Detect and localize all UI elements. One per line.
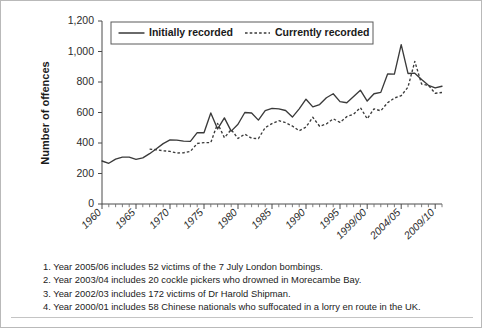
x-tick-label: 1985	[248, 206, 273, 231]
x-tick-label: 1990	[282, 206, 307, 231]
chart-area: 02004006008001,0001,200 1960196519701975…	[1, 1, 482, 253]
y-tick-labels: 02004006008001,0001,200	[68, 14, 94, 209]
x-tick-labels: 196019651970197519801985199019951999/002…	[78, 206, 436, 242]
footnotes-list: 1. Year 2005/06 includes 52 victims of t…	[1, 256, 482, 313]
y-tick-label: 200	[76, 167, 94, 179]
series-line-currently-recorded	[150, 61, 442, 153]
legend: Initially recorded Currently recorded	[111, 22, 373, 44]
y-tick-label: 600	[76, 106, 94, 118]
footnote-item: 1. Year 2005/06 includes 52 victims of t…	[43, 260, 482, 273]
series-line-initially-recorded	[102, 45, 442, 164]
y-axis-title: Number of offences	[39, 61, 51, 164]
y-tick-label: 1,200	[68, 14, 94, 26]
x-tick-label: 2004/05	[367, 206, 403, 242]
footnote-item: 3. Year 2002/03 includes 172 victims of …	[43, 287, 482, 300]
legend-label-initially-recorded: Initially recorded	[149, 26, 233, 38]
x-tick-label: 2009/10	[401, 206, 437, 242]
y-tick-label: 400	[76, 136, 94, 148]
y-tick-marks	[98, 21, 102, 204]
data-series-group	[102, 45, 442, 164]
legend-label-currently-recorded: Currently recorded	[275, 26, 370, 38]
x-tick-label: 1965	[112, 206, 137, 231]
x-tick-label: 1980	[214, 206, 239, 231]
figure-container: 02004006008001,0001,200 1960196519701975…	[0, 0, 482, 328]
x-tick-label: 1960	[78, 206, 103, 231]
y-tick-label: 800	[76, 75, 94, 87]
horizontal-divider	[11, 317, 473, 318]
x-tick-label: 1970	[146, 206, 171, 231]
y-tick-label: 1,000	[68, 45, 94, 57]
footnote-item: 2. Year 2003/04 includes 20 cockle picke…	[43, 273, 482, 286]
x-tick-label: 1975	[180, 206, 205, 231]
footnote-item: 4. Year 2000/01 includes 58 Chinese nati…	[43, 300, 482, 313]
line-chart: 02004006008001,0001,200 1960196519701975…	[1, 1, 482, 253]
x-tick-label: 1999/00	[333, 206, 368, 241]
